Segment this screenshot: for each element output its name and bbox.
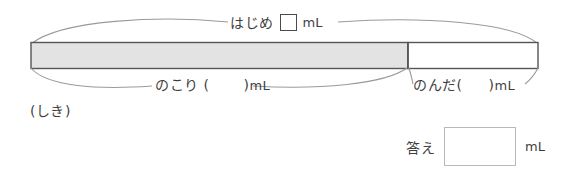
answer-label: 答え: [406, 137, 435, 157]
remaining-open-paren: (: [203, 77, 209, 93]
remaining-amount-label: のこり ()mL: [155, 78, 270, 92]
remaining-amount-unit: mL: [249, 78, 270, 93]
bottom-right-brace-end-arc: [525, 68, 538, 84]
drunk-amount-label: のんだ()mL: [413, 78, 515, 92]
bottom-left-brace-end-arc: [253, 68, 407, 87]
bar-segment-remaining: [31, 43, 408, 69]
equation-prompt-label: (しき): [30, 104, 71, 118]
total-amount-label: はじめ mL: [230, 14, 322, 31]
worksheet-page: はじめ mL のこり ()mL のんだ()mL (しき) 答え mL: [0, 0, 562, 173]
total-amount-unit: mL: [303, 16, 323, 29]
total-amount-text: はじめ: [230, 16, 274, 30]
bar-segment-drunk: [408, 43, 538, 69]
answer-unit: mL: [525, 139, 545, 154]
drunk-amount-text: のんだ: [413, 77, 457, 93]
remaining-amount-text: のこり: [155, 77, 199, 93]
drunk-open-paren: (: [457, 77, 463, 93]
drunk-amount-unit: mL: [494, 78, 515, 93]
top-brace-left-arc: [31, 19, 228, 44]
top-brace-right-arc: [338, 20, 538, 44]
total-amount-blank-box[interactable]: [280, 14, 297, 31]
answer-row: 答え mL: [406, 127, 545, 166]
answer-input-box[interactable]: [444, 127, 516, 166]
bottom-left-brace-start-arc: [31, 68, 152, 87]
